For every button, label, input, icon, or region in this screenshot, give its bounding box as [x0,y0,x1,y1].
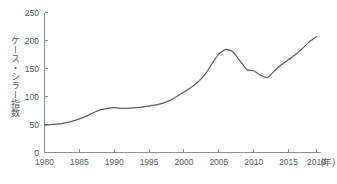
y-tick-label: 250 [25,8,39,18]
case-shiller-index-chart: 050100150200250 198019851990199520002005… [0,0,337,184]
y-tick-label: 100 [25,92,39,102]
x-tick-label: 1990 [105,157,124,167]
chart-canvas: 050100150200250 198019851990199520002005… [0,0,337,184]
y-axis-tick-labels: 050100150200250 [25,8,39,158]
y-tick-label: 200 [25,36,39,46]
x-axis-unit-label: (年) [321,157,336,167]
y-axis-title: ケース・シラー指数 [5,36,20,117]
x-tick-label: 2015 [279,157,298,167]
data-series-line [45,37,317,125]
y-tick-label: 50 [30,120,40,130]
x-axis-tick-labels: 198019851990199520002005201020152019 [35,157,326,167]
y-tick-label: 150 [25,64,39,74]
x-tick-label: 2005 [209,157,228,167]
x-tick-label: 1995 [140,157,159,167]
x-tick-label: 1985 [70,157,89,167]
x-tick-label: 2010 [244,157,263,167]
axis-tick-marks [45,13,317,153]
x-tick-label: 1980 [35,157,54,167]
x-tick-label: 2000 [175,157,194,167]
